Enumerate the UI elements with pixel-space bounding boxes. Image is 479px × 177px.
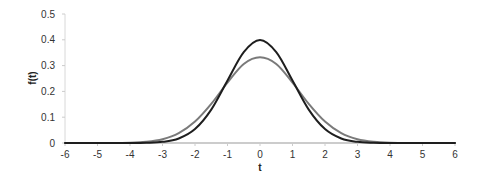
x-tick-label: 4	[387, 149, 393, 160]
x-tick-label: -4	[126, 149, 135, 160]
y-axis-title: f(t)	[27, 71, 38, 84]
x-tick-label: -3	[158, 149, 167, 160]
x-tick-label: 0	[257, 149, 263, 160]
y-axis: 00.10.20.30.40.5	[41, 9, 65, 149]
y-tick-label: 0	[49, 138, 55, 149]
x-axis-title: t	[258, 162, 262, 173]
plot-area	[65, 40, 455, 143]
x-tick-label: -5	[93, 149, 102, 160]
series-line-grey	[65, 57, 455, 143]
series-line-black	[65, 40, 455, 143]
x-tick-label: 3	[355, 149, 361, 160]
y-tick-label: 0.2	[41, 86, 55, 97]
x-axis: -6-5-4-3-2-10123456	[61, 143, 459, 160]
x-tick-label: 5	[420, 149, 426, 160]
y-tick-label: 0.1	[41, 112, 55, 123]
x-tick-label: 6	[452, 149, 458, 160]
x-tick-label: 2	[322, 149, 328, 160]
x-tick-label: -2	[191, 149, 200, 160]
y-tick-label: 0.3	[41, 60, 55, 71]
y-tick-label: 0.4	[41, 34, 55, 45]
x-tick-label: -6	[61, 149, 70, 160]
chart: 00.10.20.30.40.5 -6-5-4-3-2-10123456 t f…	[0, 0, 479, 177]
x-tick-label: -1	[223, 149, 232, 160]
x-tick-label: 1	[290, 149, 296, 160]
y-tick-label: 0.5	[41, 9, 55, 20]
